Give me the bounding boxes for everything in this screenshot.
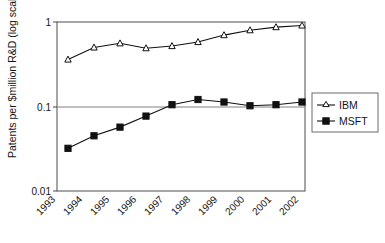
x-tick-label-2002: 2002: [277, 193, 301, 217]
series-ibm: [65, 22, 305, 62]
filled-square-icon: [221, 99, 227, 105]
x-tick-label-1997: 1997: [142, 193, 166, 217]
y-tick-label-1: 1: [45, 17, 51, 28]
filled-square-icon: [195, 96, 201, 102]
legend-label-msft: MSFT: [339, 115, 368, 127]
y-axis-title: Patents per $million R&D (log scale): [6, 0, 18, 158]
x-tick-label-1998: 1998: [169, 193, 193, 217]
x-tick-label-1995: 1995: [88, 193, 112, 217]
series-line-ibm: [68, 25, 302, 59]
filled-square-icon: [169, 102, 175, 108]
filled-square-icon: [247, 103, 253, 109]
line-chart: Patents per $million R&D (log scale) 1 0…: [0, 0, 385, 243]
x-axis-labels: 1993 1994 1995 1996 1997 1998 1999 2000 …: [34, 193, 301, 217]
series-layer: [65, 22, 305, 151]
filled-square-icon: [65, 145, 71, 151]
filled-square-icon: [91, 133, 97, 139]
x-tick-label-1994: 1994: [61, 193, 85, 217]
x-tick-label-2001: 2001: [250, 193, 274, 217]
filled-square-icon: [299, 99, 305, 105]
legend-label-ibm: IBM: [339, 99, 358, 111]
filled-square-icon: [117, 124, 123, 130]
open-triangle-icon: [117, 40, 123, 46]
chart-container: Patents per $million R&D (log scale) 1 0…: [0, 0, 385, 243]
x-tick-label-1999: 1999: [196, 193, 220, 217]
filled-square-icon: [323, 118, 329, 124]
chart-legend: IBM MSFT: [312, 93, 378, 132]
filled-square-icon: [143, 113, 149, 119]
x-tick-label-2000: 2000: [223, 193, 247, 217]
y-tick-label-0.1: 0.1: [37, 102, 51, 113]
series-msft: [65, 96, 305, 151]
x-tick-label-1996: 1996: [115, 193, 139, 217]
filled-square-icon: [273, 102, 279, 108]
open-triangle-icon: [65, 56, 71, 62]
